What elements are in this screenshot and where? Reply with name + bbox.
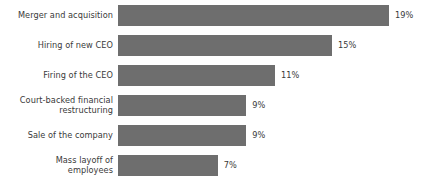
bar-track: 9%	[118, 125, 426, 146]
bar-row: Mass layoff of employees 7%	[0, 150, 426, 180]
bar-category-label: Merger and acquisition	[0, 10, 113, 21]
bar-category-label: Sale of the company	[0, 130, 113, 141]
bar-row: Firing of the CEO 11%	[0, 60, 426, 90]
bar-track: 11%	[118, 65, 426, 86]
bar-value-label: 7%	[224, 160, 237, 170]
bar-row: Court-backed financial restructuring 9%	[0, 90, 426, 120]
bar-category-label: Court-backed financial restructuring	[0, 95, 113, 116]
bar-category-label: Firing of the CEO	[0, 70, 113, 81]
bar-category-label: Hiring of new CEO	[0, 40, 113, 51]
bar-value-label: 9%	[252, 100, 265, 110]
bar-track: 19%	[118, 5, 426, 26]
bar-track: 15%	[118, 35, 426, 56]
bar-value-label: 11%	[281, 70, 299, 80]
bar-value-label: 15%	[338, 40, 356, 50]
bar-row: Hiring of new CEO 15%	[0, 30, 426, 60]
bar-value-label: 19%	[395, 10, 413, 20]
bar-track: 7%	[118, 155, 426, 176]
bar-fill	[118, 65, 275, 86]
bar-fill	[118, 95, 246, 116]
bar-fill	[118, 125, 246, 146]
bar-fill	[118, 155, 218, 176]
bar-fill	[118, 5, 389, 26]
bar-chart: Merger and acquisition 19% Hiring of new…	[0, 0, 426, 189]
bar-row: Merger and acquisition 19%	[0, 0, 426, 30]
bar-category-label: Mass layoff of employees	[0, 155, 113, 176]
bar-fill	[118, 35, 332, 56]
bar-value-label: 9%	[252, 130, 265, 140]
bar-track: 9%	[118, 95, 426, 116]
bar-row: Sale of the company 9%	[0, 120, 426, 150]
